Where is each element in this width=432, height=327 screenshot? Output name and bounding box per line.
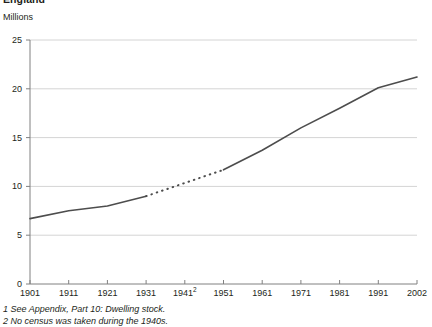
- x-axis-tick-label: 1991: [358, 288, 398, 298]
- footnote-1: 1 See Appendix, Part 10: Dwelling stock.: [3, 304, 419, 316]
- x-axis-tick-label: 1951: [204, 288, 244, 298]
- x-axis-tick-label: 1911: [49, 288, 89, 298]
- y-axis-tick-label: 10: [2, 181, 22, 191]
- y-axis-tick-label: 25: [2, 35, 22, 45]
- x-axis-tick-label: 1971: [281, 288, 321, 298]
- x-axis-tick-label: 2002: [397, 288, 432, 298]
- y-axis-tick-label: 15: [2, 133, 22, 143]
- y-axis-tick-label: 5: [2, 230, 22, 240]
- chart-canvas: [0, 0, 422, 300]
- footnote-2: 2 No census was taken during the 1940s.: [3, 316, 419, 327]
- gridlines: [30, 40, 417, 235]
- axis-lines: [30, 40, 417, 284]
- y-axis-ticks: [26, 40, 30, 284]
- data-series-group: [30, 77, 417, 219]
- data-line: [30, 196, 146, 218]
- y-axis-tick-label: 20: [2, 84, 22, 94]
- data-line: [146, 170, 223, 196]
- x-axis-tick-label: 1961: [242, 288, 282, 298]
- x-axis-tick-label: 1921: [87, 288, 127, 298]
- plot-area: 0510152025 19011911192119311941219511961…: [0, 0, 422, 300]
- x-axis-tick-label: 1931: [126, 288, 166, 298]
- x-axis-tick-label: 1981: [320, 288, 360, 298]
- footnotes: 1 See Appendix, Part 10: Dwelling stock.…: [3, 304, 419, 327]
- x-axis-tick-label: 1901: [10, 288, 50, 298]
- x-axis-label-superscript: 2: [193, 286, 197, 293]
- data-line: [224, 77, 418, 170]
- x-axis-ticks: [30, 280, 417, 284]
- x-axis-tick-label: 19412: [165, 288, 205, 298]
